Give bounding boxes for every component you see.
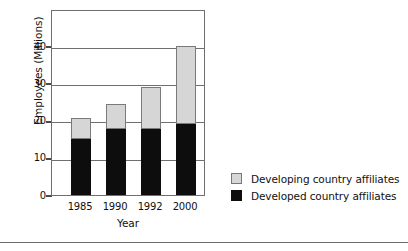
bar-2000-developed-segment — [176, 124, 196, 195]
bar-2000 — [176, 46, 196, 195]
x-axis-title: Year — [51, 218, 205, 229]
chart-legend: Developing country affiliates Developed … — [231, 171, 401, 205]
bar-1992 — [141, 87, 161, 195]
bar-1992-developed-segment — [141, 129, 161, 195]
legend-label-developed: Developed country affiliates — [251, 190, 396, 202]
light-gray-swatch-icon — [231, 173, 242, 184]
bar-1985-developing-segment — [71, 118, 91, 139]
stacked-bar-chart-figure: Employees (Millions) 40 30 20 10 0 — [0, 0, 408, 251]
bar-1985-developed-segment — [71, 139, 91, 195]
y-axis-label-40: 40 — [20, 42, 46, 52]
bar-2000-developing-segment — [176, 46, 196, 124]
y-axis-labels: 40 30 20 10 0 — [8, 0, 46, 251]
legend-item-developed: Developed country affiliates — [231, 188, 401, 203]
y-axis-label-30: 30 — [20, 79, 46, 89]
bar-1992-developing-segment — [141, 87, 161, 129]
y-axis-label-10: 10 — [20, 153, 46, 163]
x-axis-label-2000: 2000 — [162, 201, 208, 212]
bar-1990-developing-segment — [106, 104, 126, 129]
bar-1990 — [106, 104, 126, 195]
bar-1990-developed-segment — [106, 129, 126, 195]
bottom-divider — [0, 242, 408, 243]
legend-item-developing: Developing country affiliates — [231, 171, 401, 186]
legend-label-developing: Developing country affiliates — [251, 173, 399, 185]
plot-area — [51, 10, 205, 196]
y-axis-label-0: 0 — [20, 191, 46, 201]
bar-1985 — [71, 118, 91, 195]
black-swatch-icon — [231, 190, 242, 201]
y-axis-label-20: 20 — [20, 116, 46, 126]
